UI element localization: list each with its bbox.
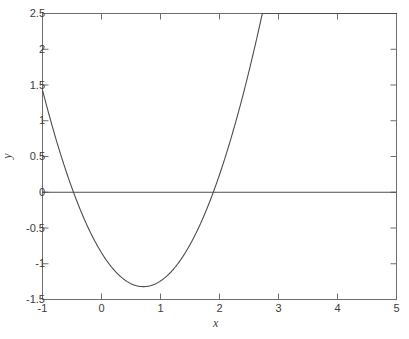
plot-area [0, 0, 409, 339]
xtick-label--1: -1 [31, 303, 55, 314]
ytick-label-1.5: 1.5 [30, 80, 45, 91]
ytick-label-0: 0 [39, 187, 45, 198]
ytick-label-0.5: 0.5 [30, 151, 45, 162]
xtick-label-3: 3 [267, 303, 291, 314]
xtick-label-1: 1 [149, 303, 173, 314]
xtick-label-5: 5 [385, 303, 409, 314]
y-axis-title: y [1, 153, 13, 158]
ytick-label-2: 2 [39, 44, 45, 55]
axes-box [43, 14, 397, 300]
xtick-label-2: 2 [208, 303, 232, 314]
xtick-label-4: 4 [326, 303, 350, 314]
ytick-label-1: 1 [39, 115, 45, 126]
ytick-label--0.5: -0.5 [26, 223, 45, 234]
x-axis-title: x [213, 317, 218, 329]
ytick-label--1: -1 [35, 258, 45, 269]
figure-canvas: 2.5 2 1.5 1 0.5 0 -0.5 -1 -1.5 -1 0 1 2 … [0, 0, 409, 339]
xtick-label-0: 0 [90, 303, 114, 314]
ytick-label-2.5: 2.5 [30, 8, 45, 19]
